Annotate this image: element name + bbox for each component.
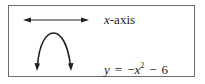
x-axis-label: x-axis: [104, 13, 135, 26]
eq-minus: −: [149, 62, 156, 77]
eq-equals: =: [115, 62, 122, 77]
eq-lhs: y: [104, 62, 110, 77]
eq-constant: 6: [162, 62, 169, 77]
downward-parabola-icon: [35, 33, 74, 71]
legend-symbols: [0, 0, 205, 84]
eq-exponent: 2: [140, 61, 144, 70]
double-headed-arrow-icon: [23, 18, 89, 23]
axis-word: -axis: [110, 12, 135, 27]
parabola-equation: y=−x2−6: [104, 63, 168, 76]
